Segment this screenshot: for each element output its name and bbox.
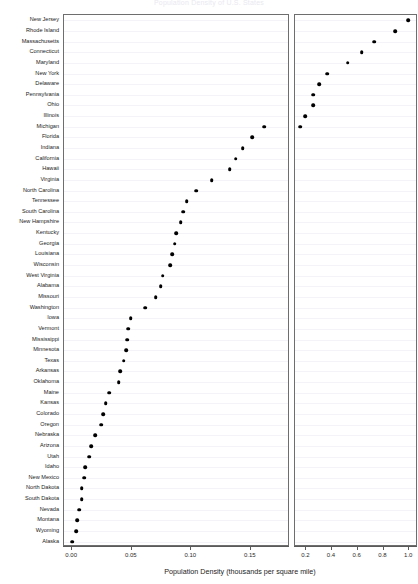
y-axis-label: Nebraska [35, 430, 59, 439]
right-panel-plot-area [295, 15, 416, 545]
y-axis-label: Georgia [39, 238, 59, 247]
gridline [295, 137, 416, 138]
data-point [210, 178, 214, 182]
data-point [168, 263, 172, 267]
y-axis-label: Washington [30, 302, 59, 311]
gridline [64, 159, 288, 160]
data-point [311, 93, 315, 97]
data-point [317, 82, 321, 86]
data-point [80, 497, 84, 501]
gridline [295, 531, 416, 532]
gridline [295, 201, 416, 202]
x-tick [331, 546, 332, 550]
gridline [295, 350, 416, 351]
x-tick [250, 546, 251, 550]
y-axis-label: Michigan [37, 121, 59, 130]
data-point [326, 72, 330, 76]
y-axis-label: Maryland [36, 57, 59, 66]
y-axis-label: Colorado [36, 409, 59, 418]
gridline [295, 63, 416, 64]
y-axis-label: Texas [44, 355, 59, 364]
gridline [295, 191, 416, 192]
gridline [64, 201, 288, 202]
y-axis-label: Montana [37, 515, 59, 524]
gridline [64, 361, 288, 362]
gridline [64, 95, 288, 96]
y-axis-label: Pennsylvania [26, 89, 59, 98]
data-point [171, 253, 175, 257]
y-axis-label: Florida [42, 132, 59, 141]
y-axis-label: New Hampshire [19, 217, 59, 226]
gridline [64, 510, 288, 511]
gridline [64, 350, 288, 351]
gridline [295, 116, 416, 117]
y-axis-label: New Jersey [30, 15, 59, 24]
data-point [185, 199, 189, 203]
gridline [64, 297, 288, 298]
gridline [295, 31, 416, 32]
gridline [64, 340, 288, 341]
data-point [372, 40, 376, 44]
gridline [295, 361, 416, 362]
gridline [295, 148, 416, 149]
data-point [228, 167, 232, 171]
gridline [295, 265, 416, 266]
gridline [295, 127, 416, 128]
gridline [295, 52, 416, 53]
gridline [295, 254, 416, 255]
gridline [295, 403, 416, 404]
data-point [87, 455, 91, 459]
gridline [64, 169, 288, 170]
gridline [295, 222, 416, 223]
y-axis-label: New Mexico [29, 472, 59, 481]
gridline [295, 467, 416, 468]
x-tick-label: 0.6 [353, 552, 361, 558]
data-point [74, 529, 78, 533]
data-point [104, 402, 108, 406]
x-tick-label: 0.00 [65, 552, 77, 558]
y-axis-label: Nevada [40, 504, 59, 513]
x-axis-title: Population Density (thousands per square… [63, 567, 417, 576]
data-point [179, 221, 183, 225]
gridline [64, 542, 288, 543]
data-point [406, 19, 410, 23]
gridline [64, 382, 288, 383]
y-axis-label: Vermont [38, 323, 59, 332]
data-point [78, 508, 82, 512]
data-point [125, 338, 129, 342]
y-axis-label: Missouri [38, 291, 59, 300]
data-point [75, 519, 79, 523]
x-tick [71, 546, 72, 550]
gridline [295, 457, 416, 458]
y-axis-label: Louisiana [35, 249, 59, 258]
gridline [64, 84, 288, 85]
y-axis-label: North Carolina [23, 185, 59, 194]
y-axis-label: Indiana [41, 143, 59, 152]
x-tick [383, 546, 384, 550]
gridline [64, 531, 288, 532]
y-axis-label: Maine [44, 387, 59, 396]
data-point [174, 231, 178, 235]
gridline [295, 329, 416, 330]
gridline [295, 159, 416, 160]
y-axis-label: Kentucky [36, 228, 59, 237]
gridline [295, 446, 416, 447]
y-axis-category-labels: New JerseyRhode IslandMassachusettsConne… [0, 14, 61, 546]
y-axis-label: North Dakota [26, 483, 59, 492]
y-axis-label: South Carolina [22, 206, 59, 215]
x-tick-label: 1.0 [404, 552, 412, 558]
gridline [64, 148, 288, 149]
gridline [64, 457, 288, 458]
y-axis-label: Wisconsin [34, 260, 60, 269]
data-point [360, 50, 364, 54]
y-axis-label: California [35, 153, 59, 162]
gridline [295, 233, 416, 234]
gridline [64, 127, 288, 128]
data-point [194, 189, 198, 193]
y-axis-label: Hawaii [42, 164, 59, 173]
gridline [64, 478, 288, 479]
x-tick-label: 0.05 [125, 552, 137, 558]
y-axis-label: Alaska [42, 536, 59, 545]
gridline [64, 371, 288, 372]
y-axis-label: Alabama [37, 281, 59, 290]
